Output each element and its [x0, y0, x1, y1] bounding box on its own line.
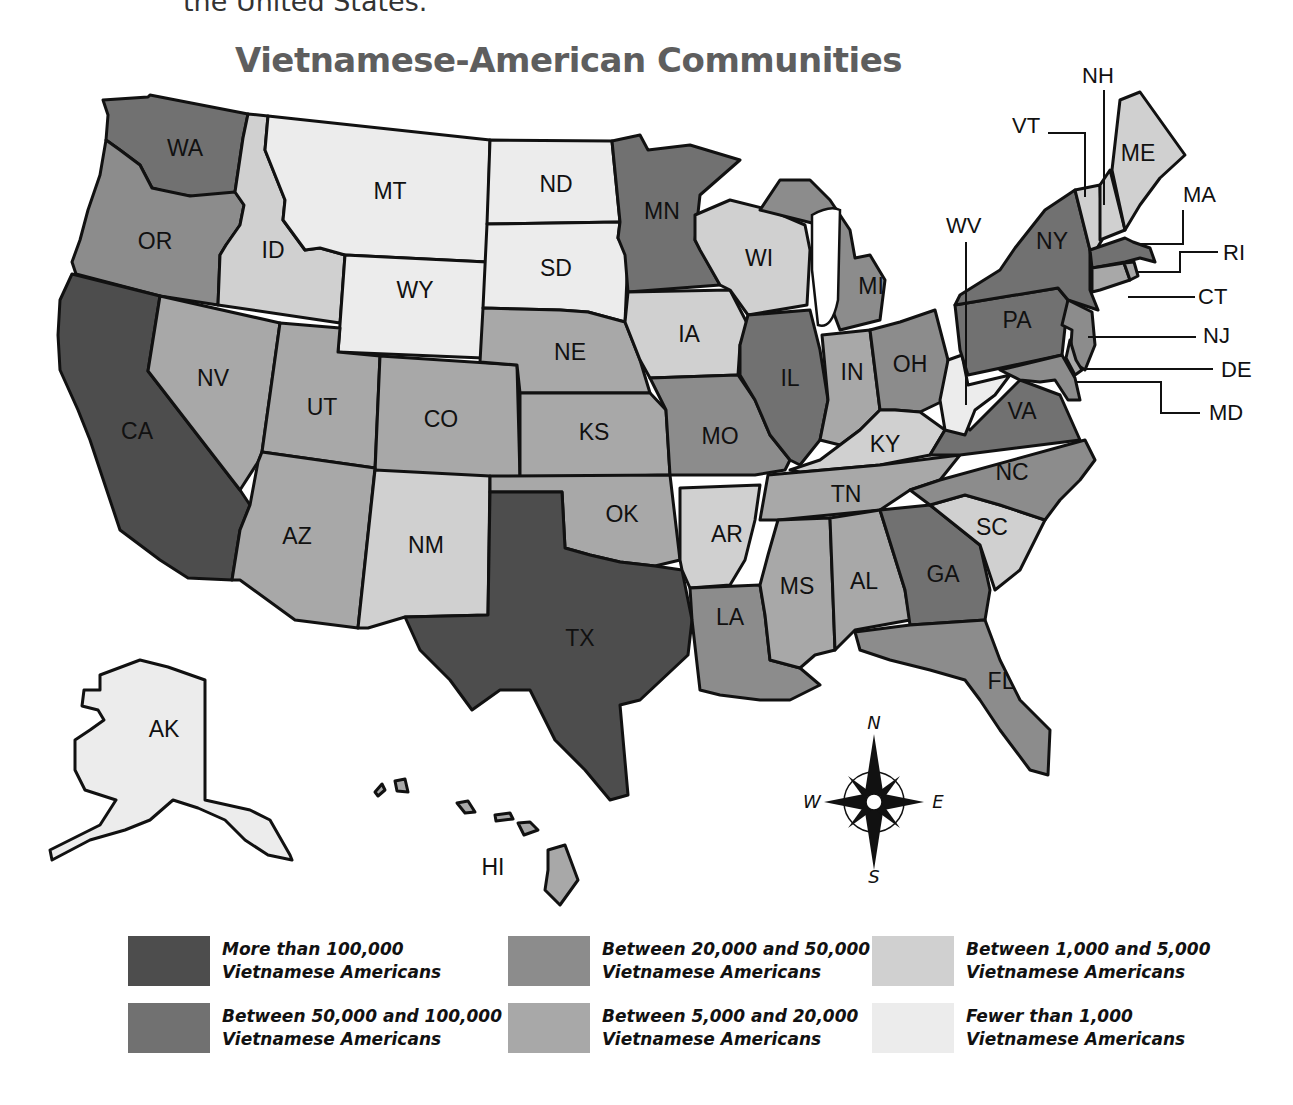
legend-item-under-1k: Fewer than 1,000Vietnamese Americans [872, 1003, 1185, 1053]
state-HI-4[interactable] [495, 813, 513, 821]
label-NE: NE [554, 339, 586, 365]
label-TX: TX [565, 625, 594, 651]
legend-swatch [128, 1003, 210, 1053]
label-OH: OH [893, 351, 928, 377]
label-CO: CO [424, 406, 459, 432]
us-map: WA OR CA ID NV MT WY UT CO AZ NM ND SD N… [0, 0, 1293, 930]
label-KS: KS [579, 419, 610, 445]
label-ID: ID [262, 237, 285, 263]
label-MO: MO [701, 423, 738, 449]
label-NM: NM [408, 532, 444, 558]
label-NJ: NJ [1203, 323, 1230, 348]
state-HI-1[interactable] [375, 784, 385, 796]
label-AR: AR [711, 521, 743, 547]
label-DE: DE [1221, 357, 1252, 382]
legend-swatch [508, 936, 590, 986]
legend-swatch [508, 1003, 590, 1053]
label-AL: AL [850, 568, 878, 594]
label-CT: CT [1198, 284, 1227, 309]
compass-rose-icon: N S W E [803, 712, 944, 887]
state-HI-3[interactable] [457, 801, 475, 813]
label-ND: ND [539, 171, 572, 197]
label-MI: MI [858, 273, 884, 299]
state-FL[interactable] [855, 620, 1050, 775]
label-AZ: AZ [282, 523, 311, 549]
label-MA: MA [1183, 182, 1216, 207]
label-WA: WA [167, 135, 204, 161]
label-FL: FL [988, 668, 1015, 694]
label-KY: KY [870, 431, 901, 457]
legend-item-1k-5k: Between 1,000 and 5,000Vietnamese Americ… [872, 936, 1211, 986]
label-TN: TN [831, 481, 862, 507]
label-VA: VA [1008, 398, 1038, 424]
label-WV: WV [946, 213, 982, 238]
label-MN: MN [644, 198, 680, 224]
label-ME: ME [1121, 140, 1156, 166]
label-NC: NC [995, 459, 1028, 485]
label-OR: OR [138, 228, 173, 254]
label-NH: NH [1082, 63, 1114, 88]
label-SD: SD [540, 255, 572, 281]
label-GA: GA [926, 561, 960, 587]
label-HI: HI [482, 854, 505, 880]
label-NY: NY [1036, 228, 1068, 254]
compass-w: W [803, 791, 822, 812]
compass-e: E [932, 791, 944, 812]
label-VT: VT [1012, 113, 1040, 138]
label-MD: MD [1209, 400, 1243, 425]
state-HI-2[interactable] [395, 779, 408, 792]
label-SC: SC [976, 514, 1008, 540]
legend-item-5k-20k: Between 5,000 and 20,000Vietnamese Ameri… [508, 1003, 858, 1053]
state-WY[interactable] [338, 255, 487, 358]
label-IL: IL [780, 365, 799, 391]
map-legend: More than 100,000Vietnamese Americans Be… [128, 936, 1228, 1056]
label-AK: AK [149, 716, 180, 742]
label-UT: UT [307, 394, 338, 420]
state-HI-6[interactable] [545, 845, 578, 905]
compass-n: N [867, 712, 880, 733]
label-OK: OK [605, 501, 639, 527]
label-WI: WI [745, 245, 773, 271]
label-MT: MT [373, 178, 406, 204]
label-IA: IA [678, 321, 700, 347]
label-NV: NV [197, 365, 230, 391]
legend-item-over-100k: More than 100,000Vietnamese Americans [128, 936, 441, 986]
legend-item-50k-100k: Between 50,000 and 100,000Vietnamese Ame… [128, 1003, 502, 1053]
label-PA: PA [1003, 307, 1033, 333]
label-LA: LA [716, 604, 745, 630]
legend-swatch [872, 1003, 954, 1053]
state-HI-5[interactable] [518, 822, 538, 835]
legend-swatch [128, 936, 210, 986]
compass-s: S [868, 866, 879, 887]
legend-item-20k-50k: Between 20,000 and 50,000Vietnamese Amer… [508, 936, 870, 986]
label-CA: CA [121, 418, 154, 444]
label-MS: MS [780, 573, 815, 599]
legend-swatch [872, 936, 954, 986]
label-WY: WY [396, 277, 433, 303]
state-NY[interactable] [955, 190, 1098, 310]
label-RI: RI [1223, 240, 1245, 265]
state-AK[interactable] [50, 660, 292, 860]
label-IN: IN [841, 359, 864, 385]
